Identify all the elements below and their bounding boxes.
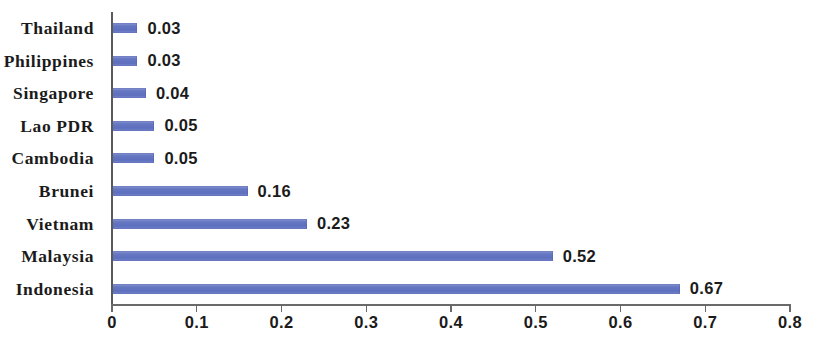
- bar-group: 0.03: [112, 23, 181, 33]
- bar-row: Singapore0.04: [0, 77, 816, 110]
- bar-group: 0.52: [112, 251, 596, 261]
- bar-group: 0.16: [112, 186, 291, 196]
- category-label: Brunei: [39, 181, 94, 202]
- bar: [112, 251, 553, 261]
- bar: [112, 121, 154, 131]
- bar: [112, 23, 137, 33]
- bar-row: Vietnam0.23: [0, 207, 816, 240]
- bar: [112, 153, 154, 163]
- bar: [112, 186, 248, 196]
- category-label: Singapore: [13, 83, 94, 104]
- x-axis-tick: [535, 305, 536, 312]
- bar-row: Indonesia0.67: [0, 272, 816, 305]
- category-label: Vietnam: [26, 213, 94, 234]
- category-label: Cambodia: [11, 148, 94, 169]
- bar-group: 0.23: [112, 219, 350, 229]
- x-axis-tick: [789, 305, 790, 312]
- bar-value-label: 0.05: [164, 149, 197, 168]
- x-axis-tick-label: 0.1: [185, 313, 209, 332]
- x-axis-tick: [620, 305, 621, 312]
- x-axis-tick-label: 0.5: [524, 313, 548, 332]
- x-axis-tick-label: 0.2: [270, 313, 294, 332]
- category-label: Indonesia: [16, 278, 94, 299]
- bar-value-label: 0.04: [156, 84, 189, 103]
- bar-group: 0.03: [112, 56, 181, 66]
- bar-group: 0.05: [112, 153, 198, 163]
- category-label: Philippines: [4, 50, 94, 71]
- x-axis-tick-label: 0.6: [609, 313, 633, 332]
- category-label: Thailand: [21, 18, 94, 39]
- x-axis-tick: [196, 305, 197, 312]
- x-axis-tick-label: 0.8: [778, 313, 802, 332]
- bar-chart: Thailand0.03Philippines0.03Singapore0.04…: [0, 0, 816, 338]
- bar-group: 0.05: [112, 121, 198, 131]
- x-axis-tick: [705, 305, 706, 312]
- x-axis-tick: [111, 305, 112, 312]
- x-axis-tick-label: 0.7: [693, 313, 717, 332]
- bar-row: Cambodia0.05: [0, 142, 816, 175]
- bar-group: 0.67: [112, 284, 723, 294]
- x-axis-tick-label: 0.3: [354, 313, 378, 332]
- bar-value-label: 0.03: [147, 51, 180, 70]
- bar: [112, 219, 307, 229]
- bar-row: Malaysia0.52: [0, 240, 816, 273]
- bar-value-label: 0.67: [690, 279, 723, 298]
- bar: [112, 284, 680, 294]
- bar-value-label: 0.23: [317, 214, 350, 233]
- y-axis-line: [111, 12, 113, 305]
- bar-row: Lao PDR0.05: [0, 110, 816, 143]
- x-axis-tick-label: 0.4: [439, 313, 463, 332]
- category-label: Malaysia: [21, 246, 94, 267]
- x-axis-tick-label: 0: [107, 313, 116, 332]
- plot-area: Thailand0.03Philippines0.03Singapore0.04…: [0, 0, 816, 338]
- x-axis-tick: [450, 305, 451, 312]
- bar-group: 0.04: [112, 88, 189, 98]
- bar-value-label: 0.03: [147, 19, 180, 38]
- bar-value-label: 0.16: [258, 182, 291, 201]
- bar-value-label: 0.52: [563, 247, 596, 266]
- x-axis-tick: [281, 305, 282, 312]
- x-axis-tick: [366, 305, 367, 312]
- bar-row: Thailand0.03: [0, 12, 816, 45]
- bar-row: Philippines0.03: [0, 45, 816, 78]
- bar-value-label: 0.05: [164, 116, 197, 135]
- bar-row: Brunei0.16: [0, 175, 816, 208]
- category-label: Lao PDR: [20, 115, 94, 136]
- bar: [112, 88, 146, 98]
- bar: [112, 56, 137, 66]
